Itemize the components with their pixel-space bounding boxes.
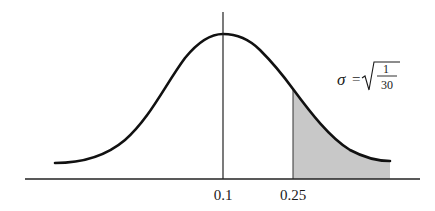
fraction-denominator: 30	[381, 78, 393, 92]
fraction-numerator: 1	[383, 62, 389, 76]
cutoff-tick-label: 0.25	[280, 187, 306, 203]
normal-curve-figure: 0.1 0.25 σ = 1 30	[0, 0, 435, 211]
sigma-annotation: σ = 1 30	[337, 62, 400, 92]
equals-sign: =	[352, 71, 360, 87]
sigma-symbol: σ	[337, 70, 346, 89]
mean-tick-label: 0.1	[214, 187, 233, 203]
shaded-tail-region	[293, 89, 390, 179]
